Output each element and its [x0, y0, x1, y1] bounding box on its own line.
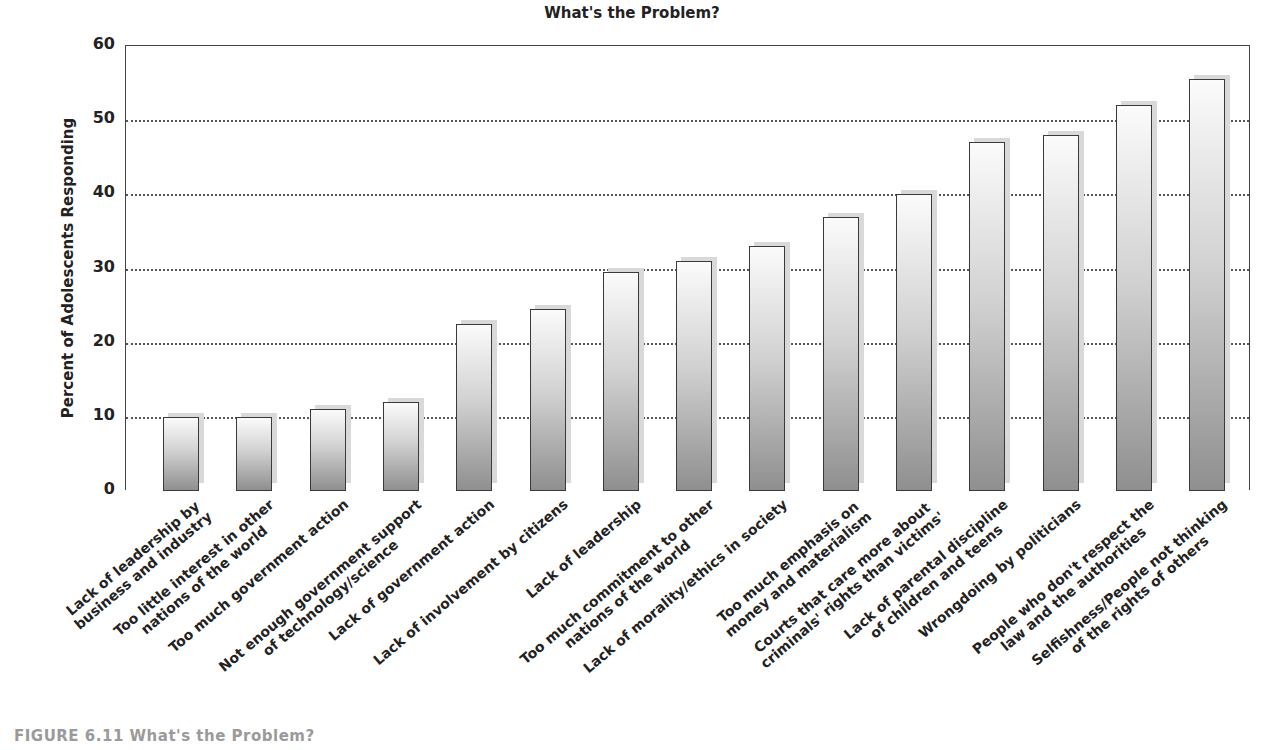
bar — [310, 409, 346, 491]
bar — [896, 194, 932, 491]
y-tick-label: 20 — [75, 331, 115, 350]
y-tick-label: 40 — [75, 182, 115, 201]
figure-caption: FIGURE 6.11 What's the Problem? — [14, 727, 315, 750]
bar — [969, 142, 1005, 491]
bar — [163, 417, 199, 491]
chart-title: What's the Problem? — [0, 4, 1264, 22]
bar — [236, 417, 272, 491]
y-tick-label: 50 — [75, 108, 115, 127]
bar — [823, 217, 859, 491]
plot-area — [125, 45, 1250, 490]
bar — [1116, 105, 1152, 491]
bar — [456, 324, 492, 491]
bar — [383, 402, 419, 491]
bar — [603, 272, 639, 491]
y-tick-label: 30 — [75, 257, 115, 276]
bar — [530, 309, 566, 491]
y-tick-label: 60 — [75, 34, 115, 53]
y-tick-label: 10 — [75, 405, 115, 424]
bar — [1189, 79, 1225, 491]
y-tick-label: 0 — [75, 479, 115, 498]
gridline — [126, 120, 1249, 122]
bar — [749, 246, 785, 491]
bar — [676, 261, 712, 491]
bar — [1043, 135, 1079, 491]
